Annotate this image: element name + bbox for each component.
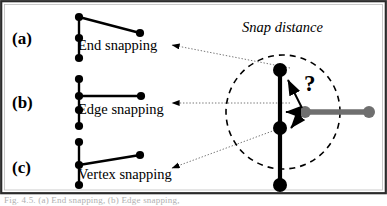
panel-a-node-bottom <box>75 54 83 62</box>
panel-b-node-second <box>75 92 83 100</box>
figure-caption: Fig. 4.5. (a) End snapping, (b) Edge sna… <box>0 196 387 206</box>
target-edge-node-mid <box>273 121 287 135</box>
panel-b-node-top <box>75 75 83 83</box>
moving-edge-node-right <box>363 106 375 118</box>
panel-tag-c: (c) <box>12 159 31 176</box>
target-edge-node-bottom <box>273 178 287 192</box>
panel-label-edge-snapping: Edge snapping <box>78 102 164 117</box>
snap-distance-label: Snap distance <box>242 20 323 35</box>
figure-canvas <box>0 0 387 206</box>
question-mark-label: ? <box>304 72 316 95</box>
panel-c-node-bottom <box>75 181 83 189</box>
panel-a-node-top <box>75 13 83 21</box>
panel-tag-b: (b) <box>12 94 33 111</box>
panel-b-node-horizontal-end <box>137 92 145 100</box>
snapping-figure: (a) End snapping (b) Edge snapping (c) V… <box>0 0 387 206</box>
panel-label-end-snapping: End snapping <box>78 38 157 53</box>
panel-c-node-slant-end <box>136 151 144 159</box>
panel-b-node-bottom <box>75 122 83 130</box>
panel-c-node-top <box>75 138 83 146</box>
target-edge-node-top <box>273 63 287 77</box>
figure-border <box>1 1 386 193</box>
panel-label-vertex-snapping: Vertex snapping <box>78 167 172 182</box>
panel-tag-a: (a) <box>12 30 32 47</box>
panel-a-node-slant-end <box>136 29 144 37</box>
figure-caption-text: Fig. 4.5. (a) End snapping, (b) Edge sna… <box>4 196 180 205</box>
